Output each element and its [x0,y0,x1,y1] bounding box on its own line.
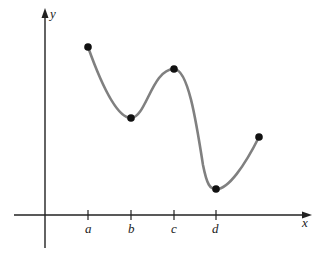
y-axis: y [42,6,57,248]
local-min-b-marker [127,114,135,122]
function-graph: x y a b c d [0,0,326,255]
local-min-d-marker [212,185,220,193]
end-point-marker [255,133,263,141]
y-axis-arrow-icon [42,8,49,18]
x-ticks: a b c d [85,210,219,236]
local-max-c-marker [170,65,178,73]
x-axis-label: x [301,215,308,230]
tick-label-a: a [85,221,92,236]
tick-label-d: d [212,221,219,236]
tick-label-c: c [171,221,177,236]
tick-label-b: b [128,221,135,236]
y-axis-label: y [48,6,56,21]
x-axis: x [14,212,312,231]
curve-markers [84,43,263,193]
start-point-marker [84,43,92,51]
